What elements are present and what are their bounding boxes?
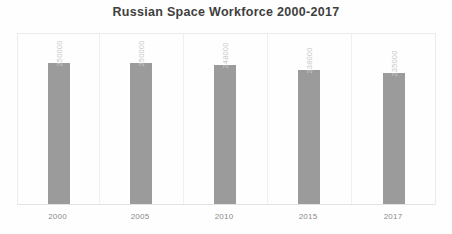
x-axis: 2000 2005 2010 2015 2017 [17, 206, 436, 232]
x-axis-tick-label: 2000 [17, 212, 98, 221]
chart-title: Russian Space Workforce 2000-2017 [0, 5, 452, 19]
bar-band: 250000 [18, 34, 99, 204]
bar-value-label: 238000 [305, 47, 314, 73]
x-axis-tick-label: 2010 [182, 212, 266, 221]
bar[interactable] [130, 63, 152, 204]
bar-band: 238000 [267, 34, 351, 204]
bar[interactable] [214, 65, 236, 204]
bar-band: 250000 [99, 34, 183, 204]
x-axis-tick-label: 2005 [98, 212, 182, 221]
bar[interactable] [298, 70, 320, 204]
bar-band: 248000 [183, 34, 267, 204]
bar-value-label: 250000 [137, 40, 146, 66]
x-axis-tick-label: 2015 [266, 212, 350, 221]
plot-area: 250000 250000 248000 238000 235000 [17, 33, 436, 205]
bar-chart: Russian Space Workforce 2000-2017 250000… [0, 0, 452, 234]
bar-value-label: 248000 [221, 42, 230, 68]
bar[interactable] [383, 73, 405, 204]
bar[interactable] [48, 63, 70, 204]
x-axis-tick-label: 2017 [350, 212, 436, 221]
bar-band: 235000 [351, 34, 437, 204]
bar-value-label: 235000 [390, 50, 399, 76]
bar-value-label: 250000 [54, 40, 63, 66]
